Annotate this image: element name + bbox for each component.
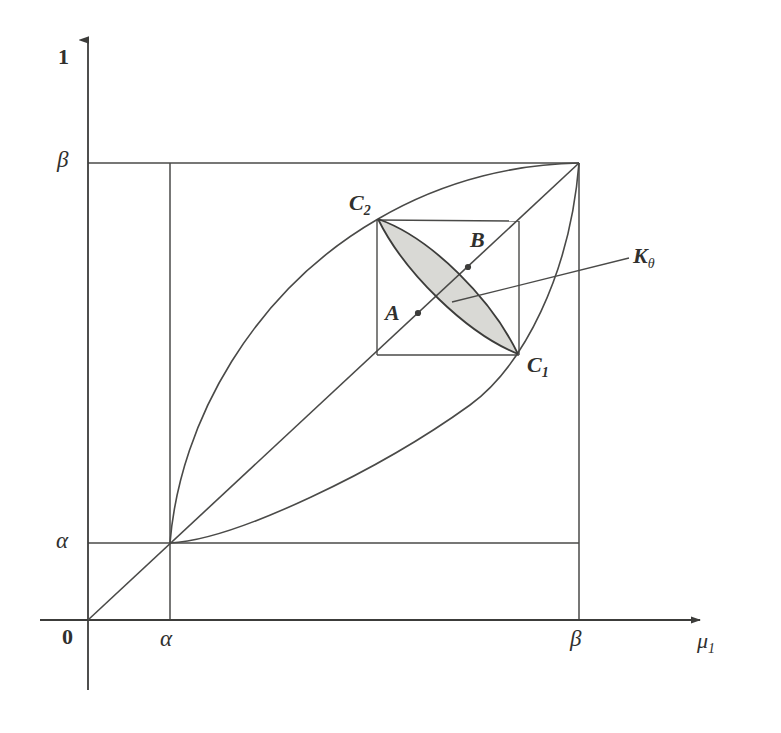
k-theta-leader-line [452,258,629,302]
y-axis-beta-label: β [57,147,68,173]
x-axis-beta-label: β [570,626,581,652]
point-label-c1-subscript: 1 [542,365,549,380]
x-axis-label-subscript: 1 [708,641,715,656]
y-axis-alpha-label: α [56,528,68,554]
x-axis-label: μ1 [697,628,715,657]
point-label-c1-base: C [527,352,542,377]
point-label-c2: C2 [349,190,371,219]
point-b-marker [465,264,471,270]
x-axis-alpha-label: α [160,626,172,652]
point-label-b: B [470,227,485,253]
k-theta-label-subscript: θ [648,256,655,271]
origin-label: 0 [62,624,73,650]
point-label-c2-base: C [349,190,364,215]
point-label-a: A [385,300,400,326]
point-a-marker [415,310,421,316]
point-label-c2-subscript: 2 [364,203,371,218]
k-theta-label-base: K [633,243,648,268]
diagonal-line [88,163,579,620]
y-axis-top-label: 1 [58,44,69,70]
point-label-c1: C1 [527,352,549,381]
geometric-diagram-canvas [0,0,781,733]
x-axis-label-base: μ [697,628,708,653]
inner-square-top [377,220,519,221]
k-theta-label: Kθ [633,243,655,272]
